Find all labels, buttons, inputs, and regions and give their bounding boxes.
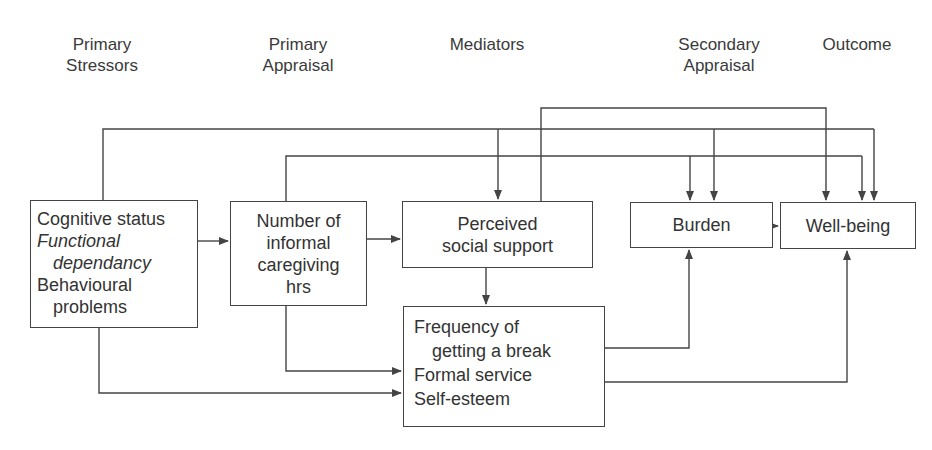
stressor-functional: Functional <box>37 230 197 252</box>
box-caregiving-hours: Number of informal caregiving hrs <box>230 201 367 306</box>
box-line: social support <box>442 235 553 257</box>
stressor-cognitive-status: Cognitive status <box>37 208 197 230</box>
box-perceived-social-support: Perceived social support <box>402 201 593 268</box>
box-line: Burden <box>672 214 730 236</box>
box-primary-stressors: Cognitive status Functional dependancy B… <box>30 200 198 328</box>
box-line: Perceived <box>457 213 537 235</box>
mediator-formal-service: Formal service <box>414 363 604 387</box>
box-line: caregiving <box>257 254 339 276</box>
arrow-support-to-wellbeing <box>541 108 826 201</box>
arrow-mediators-to-burden <box>605 250 689 348</box>
arrow-stressors-to-mediators <box>99 328 401 393</box>
box-well-being: Well-being <box>780 202 916 249</box>
box-line: informal <box>266 232 330 254</box>
stressor-problems: problems <box>37 296 197 318</box>
box-mediators: Frequency of getting a break Formal serv… <box>403 306 605 427</box>
box-line: Well-being <box>806 215 891 237</box>
stressor-behavioural: Behavioural <box>37 274 197 296</box>
arrow-hours-to-mediators <box>286 306 401 371</box>
box-line: hrs <box>286 276 311 298</box>
mediator-getting-break: getting a break <box>414 339 604 363</box>
mediator-self-esteem: Self-esteem <box>414 387 604 411</box>
line-hours-top <box>286 156 862 201</box>
stressor-dependancy: dependancy <box>37 252 197 274</box>
arrow-mediators-to-wellbeing <box>605 251 847 382</box>
line-stressors-top <box>103 129 874 200</box>
mediator-frequency: Frequency of <box>414 315 604 339</box>
box-line: Number of <box>256 210 340 232</box>
box-burden: Burden <box>630 202 773 248</box>
